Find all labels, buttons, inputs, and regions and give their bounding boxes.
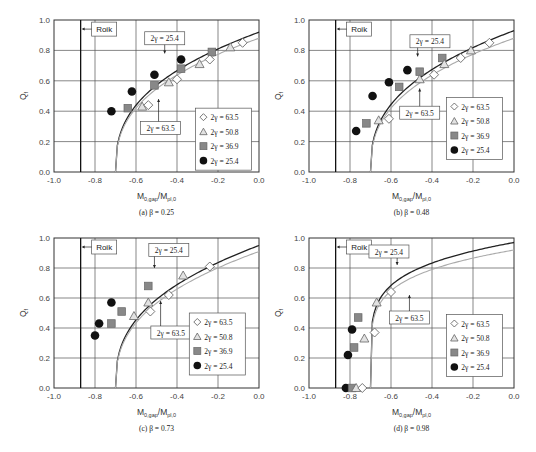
y-tick-label: 0.6 bbox=[294, 294, 306, 303]
x-tick-label: -0.2 bbox=[211, 392, 225, 401]
panel-caption: (b) β = 0.48 bbox=[394, 208, 430, 217]
legend-label: 2γ = 63.5 bbox=[210, 113, 238, 122]
x-tick-label: -0.8 bbox=[343, 392, 357, 401]
square-marker bbox=[145, 282, 153, 290]
legend: 2γ = 63.52γ = 50.82γ = 36.92γ = 25.4 bbox=[446, 315, 502, 377]
x-axis-label: M0,gap/Mpl,0 bbox=[137, 191, 176, 202]
y-tick-label: 0.2 bbox=[39, 138, 51, 147]
y-axis-label: Qf bbox=[273, 91, 284, 100]
series-circle bbox=[91, 298, 116, 340]
curve-label-upper: 2γ = 25.4 bbox=[375, 248, 403, 257]
x-tick-label: 0.0 bbox=[508, 392, 520, 401]
x-tick-label: -0.4 bbox=[170, 392, 184, 401]
y-tick-label: 0.0 bbox=[39, 384, 51, 393]
triangle-marker bbox=[129, 312, 138, 320]
y-axis-label: Qf bbox=[273, 308, 284, 317]
panel-caption: (a) β = 0.25 bbox=[139, 208, 174, 217]
legend-label: 2γ = 50.8 bbox=[461, 117, 489, 126]
x-tick-label: -0.2 bbox=[211, 176, 225, 185]
circle-icon bbox=[451, 363, 459, 371]
chart-panel-d: -1.0-0.8-0.6-0.4-0.20.00.00.20.40.60.81.… bbox=[273, 234, 520, 433]
x-tick-label: -1.0 bbox=[47, 392, 61, 401]
y-axis-label: Qf bbox=[18, 308, 29, 317]
y-tick-label: 1.0 bbox=[294, 16, 306, 25]
legend-label: 2γ = 36.9 bbox=[461, 349, 489, 358]
circle-icon bbox=[451, 146, 459, 154]
square-marker bbox=[108, 320, 116, 328]
legend-label: 2γ = 63.5 bbox=[204, 318, 232, 327]
square-marker bbox=[363, 120, 371, 128]
x-tick-label: 0.0 bbox=[253, 176, 265, 185]
y-tick-label: 0.6 bbox=[294, 77, 306, 86]
circle-marker bbox=[150, 70, 159, 79]
y-tick-label: 0.8 bbox=[294, 264, 306, 273]
x-tick-label: -0.8 bbox=[88, 176, 102, 185]
legend-label: 2γ = 63.5 bbox=[461, 320, 489, 329]
legend-label: 2γ = 50.8 bbox=[461, 334, 489, 343]
triangle-marker bbox=[179, 271, 188, 279]
figure-canvas: -1.0-0.8-0.6-0.4-0.20.00.00.20.40.60.81.… bbox=[0, 0, 536, 452]
chart-panel-a: -1.0-0.8-0.6-0.4-0.20.00.00.20.40.60.81.… bbox=[18, 16, 265, 217]
y-tick-label: 1.0 bbox=[39, 16, 51, 25]
x-tick-label: -0.2 bbox=[466, 176, 480, 185]
legend-label: 2γ = 25.4 bbox=[210, 157, 238, 166]
square-marker bbox=[354, 314, 362, 322]
square-icon bbox=[194, 348, 201, 355]
circle-marker bbox=[128, 87, 137, 96]
y-tick-label: 0.2 bbox=[294, 138, 306, 147]
circle-marker bbox=[177, 55, 186, 64]
legend-item: 2γ = 36.9 bbox=[194, 347, 233, 356]
square-icon bbox=[200, 143, 207, 150]
roik-label: Roik bbox=[96, 25, 113, 34]
circle-marker bbox=[385, 78, 394, 87]
circle-marker bbox=[344, 351, 353, 360]
square-marker bbox=[124, 104, 132, 112]
x-tick-label: -0.4 bbox=[425, 176, 439, 185]
x-tick-label: -1.0 bbox=[302, 176, 316, 185]
x-tick-label: -0.2 bbox=[466, 392, 480, 401]
legend-label: 2γ = 63.5 bbox=[461, 103, 489, 112]
panel-caption: (c) β = 0.73 bbox=[139, 424, 174, 433]
y-axis-label: Qf bbox=[18, 91, 29, 100]
series-circle bbox=[352, 66, 412, 135]
x-tick-label: -0.8 bbox=[88, 392, 102, 401]
y-tick-label: 0.4 bbox=[39, 107, 51, 116]
diamond-marker bbox=[173, 75, 182, 84]
x-axis-label: M0,gap/Mpl,0 bbox=[137, 407, 176, 418]
y-tick-label: 0.0 bbox=[294, 168, 306, 177]
roik-label: Roik bbox=[351, 25, 368, 34]
legend-label: 2γ = 25.4 bbox=[204, 362, 232, 371]
legend: 2γ = 63.52γ = 50.82γ = 36.92γ = 25.4 bbox=[195, 108, 251, 170]
square-marker bbox=[177, 65, 185, 73]
circle-marker bbox=[348, 325, 357, 334]
x-tick-label: 0.0 bbox=[508, 176, 520, 185]
x-tick-label: -0.6 bbox=[129, 176, 143, 185]
y-tick-label: 0.0 bbox=[294, 384, 306, 393]
x-tick-label: -0.4 bbox=[170, 176, 184, 185]
curve-label-upper: 2γ = 25.4 bbox=[155, 246, 183, 255]
x-tick-label: -0.6 bbox=[129, 392, 143, 401]
x-tick-label: 0.0 bbox=[253, 392, 265, 401]
y-tick-label: 0.2 bbox=[294, 354, 306, 363]
legend-label: 2γ = 36.9 bbox=[461, 132, 489, 141]
y-tick-label: 0.0 bbox=[39, 168, 51, 177]
legend-item: 2γ = 36.9 bbox=[451, 132, 490, 141]
curve-label-upper: 2γ = 25.4 bbox=[151, 34, 179, 43]
y-tick-label: 0.4 bbox=[294, 324, 306, 333]
legend-label: 2γ = 50.8 bbox=[210, 128, 238, 137]
y-tick-label: 0.8 bbox=[39, 264, 51, 273]
curve-label-lower: 2γ = 63.5 bbox=[147, 124, 175, 133]
x-axis-label: M0,gap/Mpl,0 bbox=[392, 191, 431, 202]
circle-marker bbox=[95, 319, 104, 328]
series-circle bbox=[342, 325, 357, 392]
x-axis-label: M0,gap/Mpl,0 bbox=[392, 407, 431, 418]
circle-marker bbox=[352, 127, 361, 136]
square-marker bbox=[208, 48, 216, 56]
legend: 2γ = 63.52γ = 50.82γ = 36.92γ = 25.4 bbox=[446, 98, 502, 160]
legend-label: 2γ = 25.4 bbox=[461, 363, 489, 372]
y-tick-label: 1.0 bbox=[39, 234, 51, 243]
circle-marker bbox=[107, 107, 116, 116]
x-tick-label: -0.4 bbox=[425, 392, 439, 401]
square-marker bbox=[350, 344, 358, 352]
triangle-marker bbox=[360, 334, 369, 342]
